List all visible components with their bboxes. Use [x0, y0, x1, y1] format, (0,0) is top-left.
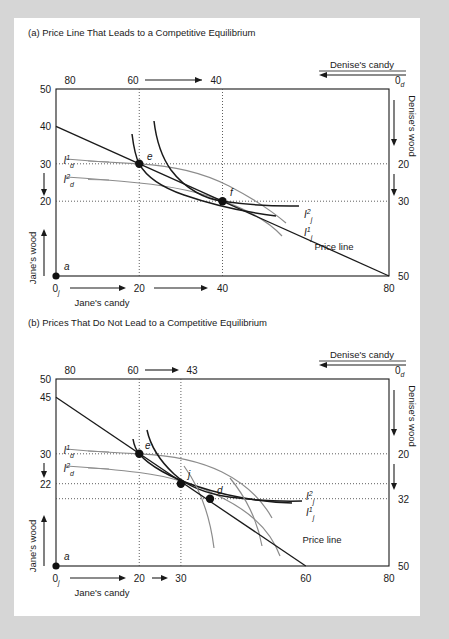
panel-b: (b) Prices That Do Not Lead to a Competi… — [14, 308, 420, 616]
point-j — [177, 480, 185, 488]
right-tick-50: 50 — [398, 561, 410, 572]
jane-wood-label: Jane's wood — [27, 520, 38, 573]
top-tick-60: 60 — [127, 75, 139, 86]
label-Ij1: I1j — [306, 506, 315, 522]
denise-candy-arrowhead — [319, 362, 327, 368]
point-e-label: e — [145, 440, 151, 451]
label-Ij2: I2j — [306, 490, 315, 506]
denise-wood-arrowhead — [391, 429, 397, 436]
right-tick-50: 50 — [398, 271, 410, 282]
curve-Ij2 — [154, 121, 299, 206]
label-Id2: I2d — [63, 173, 75, 188]
top-tick-80: 80 — [64, 75, 76, 86]
leader-Id2 — [88, 468, 109, 469]
point-a — [52, 272, 59, 279]
curve-Id1 — [66, 449, 272, 518]
denise-candy-label: Denise's candy — [330, 349, 394, 360]
denise-candy-label: Denise's candy — [330, 59, 394, 70]
right-tick-20: 20 — [398, 159, 410, 170]
bottom-tick-30: 30 — [175, 573, 187, 584]
bottom-tick-20: 20 — [134, 283, 146, 294]
bottom-origin-j: 0j — [52, 573, 60, 587]
panel-a: (a) Price Line That Leads to a Competiti… — [14, 18, 420, 318]
top-origin-d: 0d — [395, 365, 406, 378]
jane-candy-arrowhead-2 — [201, 285, 208, 291]
left-down-arrowhead — [41, 471, 47, 478]
figure-card: (a) Price Line That Leads to a Competiti… — [14, 18, 420, 616]
leader-Id1 — [88, 161, 109, 162]
bottom-tick-60: 60 — [300, 573, 312, 584]
left-tick-45: 45 — [40, 392, 52, 403]
left-tick-30: 30 — [40, 159, 52, 170]
leader-Id2 — [88, 180, 109, 181]
bottom-origin-j: 0j — [52, 283, 60, 297]
leader-Id1 — [88, 451, 109, 452]
jane-candy-arrowhead-1 — [119, 575, 126, 581]
point-a-label: a — [64, 261, 70, 272]
bottom-tick-80: 80 — [383, 283, 395, 294]
point-a — [52, 562, 59, 569]
label-Ij2: I2j — [304, 208, 313, 224]
jane-candy-arrowhead-1 — [119, 285, 126, 291]
left-tick-20: 20 — [40, 196, 52, 207]
curve-Id1 — [66, 159, 286, 223]
top-origin-d: 0d — [395, 75, 406, 88]
denise-wood-arrowhead — [391, 139, 397, 146]
top-tick-43: 43 — [186, 365, 198, 376]
top-arrow-head — [195, 77, 202, 83]
left-tick-50: 50 — [40, 374, 52, 385]
bottom-tick-80: 80 — [383, 573, 395, 584]
jane-candy-label: Jane's candy — [74, 587, 129, 598]
price-line-label: Price line — [314, 241, 353, 252]
denise-wood-label: Denise's wood — [407, 95, 418, 157]
label-Id1: I1d — [63, 154, 75, 169]
right-down-arrowhead — [391, 483, 397, 490]
jane-candy-arrowhead-2 — [161, 575, 168, 581]
point-d-label: d — [217, 485, 223, 496]
denise-candy-arrowhead — [319, 72, 327, 78]
bottom-tick-20: 20 — [134, 573, 146, 584]
right-tick-20: 20 — [398, 449, 410, 460]
curve-Ij2 — [147, 430, 302, 501]
left-down-arrowhead — [41, 189, 47, 196]
point-f — [218, 197, 226, 205]
right-tick-32: 32 — [398, 494, 410, 505]
denise-wood-label: Denise's wood — [407, 385, 418, 447]
bottom-tick-40: 40 — [217, 283, 229, 294]
left-tick-30: 30 — [40, 449, 52, 460]
point-e-label: e — [147, 151, 153, 162]
point-e — [135, 450, 143, 458]
curve-Id2 — [66, 177, 282, 236]
top-arrow-head — [172, 367, 179, 373]
top-tick-40: 40 — [210, 75, 222, 86]
left-tick-50: 50 — [40, 84, 52, 95]
panel-a-chart: 80 60 40 0d Denise's candy 50 40 30 20 J… — [14, 18, 420, 318]
jane-wood-arrowhead — [41, 229, 47, 236]
label-Id1: I1d — [63, 444, 75, 459]
right-down-arrowhead — [391, 189, 397, 196]
top-tick-80: 80 — [64, 365, 76, 376]
curve-Id2 — [66, 466, 280, 556]
price-line-label: Price line — [302, 534, 341, 545]
jane-wood-label: Jane's wood — [27, 232, 38, 285]
jane-wood-arrowhead — [41, 515, 47, 522]
left-tick-40: 40 — [40, 121, 52, 132]
jane-candy-label: Jane's candy — [74, 297, 129, 308]
point-a-label: a — [64, 551, 70, 562]
right-tick-30: 30 — [398, 196, 410, 207]
top-tick-60: 60 — [127, 365, 139, 376]
point-e — [135, 160, 143, 168]
panel-b-chart: 80 60 43 0d Denise's candy 50 45 30 22 J… — [14, 308, 420, 616]
point-d — [206, 495, 214, 503]
left-tick-22: 22 — [40, 479, 52, 490]
label-Id2: I2d — [63, 462, 75, 477]
